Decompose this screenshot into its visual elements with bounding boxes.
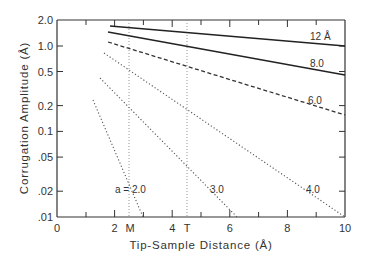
- svg-text:.01: .01: [38, 211, 53, 223]
- marker-m-label: M: [125, 222, 134, 234]
- svg-text:6: 6: [227, 222, 233, 234]
- svg-text:2: 2: [112, 222, 118, 234]
- marker-t-label: T: [184, 222, 191, 234]
- svg-text:2.0: 2.0: [38, 14, 53, 26]
- svg-text:0.1: 0.1: [38, 125, 53, 137]
- y-axis-title: Corrugation Amplitude (Å): [18, 42, 30, 194]
- svg-text:3.0: 3.0: [210, 184, 224, 195]
- svg-text:6.0: 6.0: [308, 95, 322, 106]
- series-2: [93, 100, 143, 217]
- svg-text:8: 8: [284, 222, 290, 234]
- svg-text:1.0: 1.0: [38, 40, 53, 52]
- x-axis-top-ticks: [86, 20, 316, 27]
- svg-text:.05: .05: [38, 151, 53, 163]
- svg-text:12 Å: 12 Å: [310, 30, 331, 42]
- x-axis-title: Tip-Sample Distance (Å): [129, 239, 272, 251]
- chart: 2.0 1.0 0.5 0.2 0.1 .05 .02 .01 0 2 4 6 …: [0, 0, 366, 261]
- svg-text:10: 10: [339, 222, 351, 234]
- svg-text:0: 0: [54, 222, 60, 234]
- x-axis-ticks: [86, 210, 316, 217]
- svg-text:4.0: 4.0: [306, 184, 320, 195]
- svg-text:8.0: 8.0: [310, 58, 324, 69]
- svg-text:a = 2.0: a = 2.0: [115, 184, 146, 195]
- y-axis-right-ticks: [339, 46, 345, 191]
- y-axis-ticks: [57, 46, 63, 191]
- svg-text:.02: .02: [38, 185, 53, 197]
- svg-text:0.2: 0.2: [38, 100, 53, 112]
- series-3: [100, 78, 237, 217]
- svg-text:0.5: 0.5: [38, 66, 53, 78]
- svg-text:4: 4: [169, 222, 175, 234]
- x-tick-labels: 0 2 4 6 8 10 M T: [54, 222, 351, 234]
- y-tick-labels: 2.0 1.0 0.5 0.2 0.1 .05 .02 .01: [38, 14, 53, 223]
